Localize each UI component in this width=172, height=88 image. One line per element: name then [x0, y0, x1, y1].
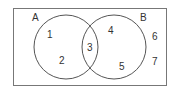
region-label-1: 1: [47, 29, 53, 40]
region-label-2: 2: [59, 55, 65, 66]
region-label-6: 6: [152, 31, 158, 42]
set-b-label: B: [140, 12, 147, 23]
region-label-4: 4: [108, 25, 114, 36]
venn-diagram: A B 1 2 3 4 5 6 7: [0, 0, 172, 88]
region-label-7: 7: [152, 56, 158, 67]
region-label-5: 5: [119, 61, 125, 72]
region-label-3: 3: [87, 42, 93, 53]
set-a-label: A: [32, 12, 39, 23]
